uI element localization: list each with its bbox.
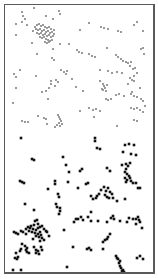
figure [0, 0, 158, 279]
plot-frame [4, 4, 155, 274]
